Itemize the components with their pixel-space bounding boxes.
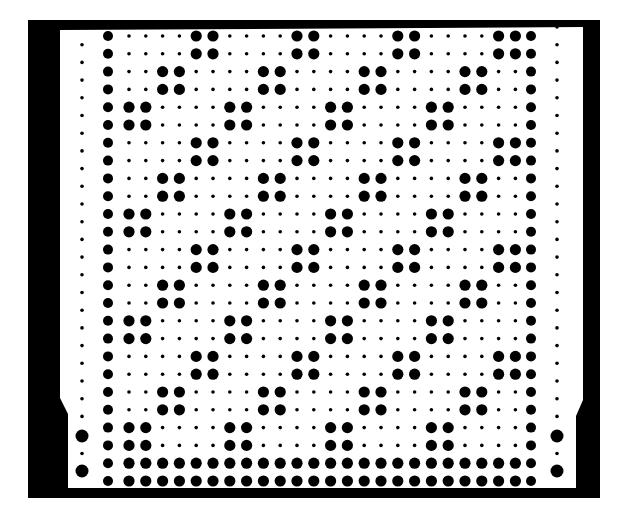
guide-dot xyxy=(329,194,333,198)
punched-hole xyxy=(392,262,403,273)
guide-dot xyxy=(379,141,383,145)
guide-dot xyxy=(379,337,383,341)
guide-dot xyxy=(178,212,182,216)
guide-dot xyxy=(396,283,400,287)
guide-dot xyxy=(262,230,266,234)
guide-dot xyxy=(362,444,366,448)
punched-hole xyxy=(275,66,286,77)
guide-dot xyxy=(312,70,316,74)
guide-dot xyxy=(245,355,249,359)
guide-dot xyxy=(312,212,316,216)
guide-dot xyxy=(430,52,434,56)
guide-dot xyxy=(413,230,417,234)
guide-dot xyxy=(379,372,383,376)
punched-card-figure xyxy=(0,0,618,515)
punched-hole xyxy=(493,475,504,486)
outer-guide-dot xyxy=(80,131,84,135)
outer-guide-dot xyxy=(80,96,84,100)
punched-hole xyxy=(325,458,336,469)
punched-hole xyxy=(123,102,134,113)
guide-dot xyxy=(413,123,417,127)
guide-dot xyxy=(262,337,266,341)
punched-hole xyxy=(325,208,336,219)
guide-dot xyxy=(329,355,333,359)
guide-dot xyxy=(295,194,299,198)
punched-hole xyxy=(140,208,151,219)
guide-dot xyxy=(144,194,148,198)
border-hole xyxy=(103,227,113,237)
guide-dot xyxy=(262,248,266,252)
guide-dot xyxy=(346,141,350,145)
guide-dot xyxy=(144,408,148,412)
punched-hole xyxy=(224,333,235,344)
outer-guide-dot xyxy=(555,114,559,118)
punched-hole xyxy=(443,119,454,130)
punched-hole xyxy=(123,208,134,219)
punched-hole xyxy=(342,102,353,113)
punched-hole xyxy=(224,458,235,469)
guide-dot xyxy=(194,194,198,198)
punched-hole xyxy=(157,404,168,415)
punched-hole xyxy=(241,440,252,451)
guide-dot xyxy=(413,88,417,92)
guide-dot xyxy=(262,355,266,359)
guide-dot xyxy=(346,88,350,92)
guide-dot xyxy=(396,408,400,412)
guide-dot xyxy=(194,70,198,74)
punched-hole xyxy=(359,191,370,202)
guide-dot xyxy=(497,212,501,216)
punched-hole xyxy=(308,262,319,273)
punched-hole xyxy=(510,48,521,59)
punched-hole xyxy=(174,191,185,202)
guide-dot xyxy=(379,319,383,323)
guide-dot xyxy=(430,301,434,305)
guide-dot xyxy=(413,177,417,181)
guide-dot xyxy=(245,141,249,145)
guide-dot xyxy=(497,70,501,74)
punched-hole xyxy=(510,369,521,380)
punched-hole xyxy=(359,475,370,486)
guide-dot xyxy=(295,337,299,341)
punched-hole xyxy=(241,333,252,344)
punched-hole xyxy=(140,458,151,469)
punched-hole xyxy=(291,137,302,148)
guide-dot xyxy=(396,319,400,323)
guide-dot xyxy=(480,141,484,145)
guide-dot xyxy=(262,266,266,270)
guide-dot xyxy=(144,177,148,181)
border-hole xyxy=(103,405,113,415)
punched-hole xyxy=(291,458,302,469)
guide-dot xyxy=(497,390,501,394)
punched-hole xyxy=(392,244,403,255)
guide-dot xyxy=(396,337,400,341)
guide-dot xyxy=(413,194,417,198)
guide-dot xyxy=(514,123,518,127)
guide-dot xyxy=(329,52,333,56)
punched-hole xyxy=(258,458,269,469)
punched-hole xyxy=(275,475,286,486)
guide-dot xyxy=(211,301,215,305)
guide-dot xyxy=(127,52,131,56)
punched-hole xyxy=(258,386,269,397)
outer-guide-dot xyxy=(555,149,559,153)
outer-guide-dot xyxy=(80,202,84,206)
guide-dot xyxy=(228,408,232,412)
guide-dot xyxy=(161,123,165,127)
punched-hole xyxy=(224,422,235,433)
guide-dot xyxy=(413,283,417,287)
border-hole xyxy=(526,67,536,77)
punched-hole xyxy=(342,226,353,237)
punched-hole xyxy=(174,173,185,184)
guide-dot xyxy=(144,159,148,163)
guide-dot xyxy=(514,194,518,198)
guide-dot xyxy=(346,301,350,305)
guide-dot xyxy=(396,88,400,92)
guide-dot xyxy=(497,301,501,305)
guide-dot xyxy=(278,372,282,376)
guide-dot xyxy=(127,408,131,412)
guide-dot xyxy=(346,177,350,181)
punched-hole xyxy=(443,458,454,469)
guide-dot xyxy=(211,337,215,341)
punched-hole xyxy=(325,119,336,130)
punched-hole xyxy=(493,351,504,362)
